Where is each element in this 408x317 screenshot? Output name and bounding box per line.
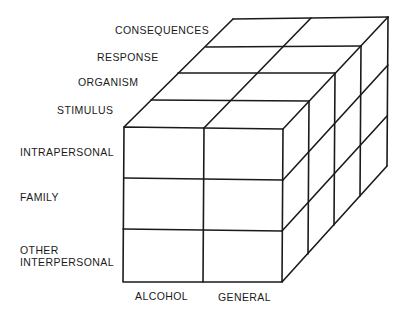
depth-label-response: RESPONSE	[97, 51, 159, 63]
cube-lines	[123, 17, 388, 282]
right-depth-vert-1	[308, 101, 309, 254]
depth-label-stimulus: STIMULUS	[57, 104, 113, 116]
top-depth-line-1	[151, 100, 309, 101]
right-back-edge	[387, 17, 388, 166]
depth-label-consequences: CONSEQUENCES	[115, 24, 209, 36]
depth-label-organism: ORGANISM	[78, 76, 138, 88]
row-label-other-interpersonal: OTHER INTERPERSONAL	[20, 244, 114, 268]
column-label-general: GENERAL	[218, 291, 271, 303]
column-label-alcohol: ALCOHOL	[135, 290, 188, 302]
cube-diagram: CONSEQUENCES RESPONSE ORGANISM STIMULUS …	[0, 0, 408, 317]
row-label-family: FAMILY	[20, 191, 59, 203]
front-row-divider-1	[124, 178, 283, 180]
row-label-intrapersonal: INTRAPERSONAL	[20, 146, 114, 158]
right-depth-vert-3	[360, 46, 361, 196]
top-depth-line-3	[206, 46, 361, 47]
front-row-divider-2	[123, 229, 282, 231]
right-depth-vert-2	[334, 73, 335, 225]
cube-grid-graphic	[0, 0, 408, 317]
front-col-divider	[203, 128, 204, 282]
